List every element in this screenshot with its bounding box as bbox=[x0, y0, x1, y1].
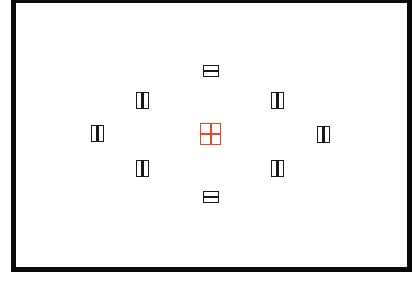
af-point-upper-right-icon bbox=[271, 92, 284, 109]
af-point-bottom-icon bbox=[203, 191, 219, 203]
af-point-upper-left-icon bbox=[136, 92, 149, 109]
af-point-left-icon bbox=[91, 125, 104, 142]
af-point-right-icon bbox=[317, 126, 330, 143]
af-point-top-icon bbox=[203, 65, 219, 77]
af-point-center-selected-icon bbox=[200, 123, 221, 145]
af-point-lower-left-icon bbox=[136, 160, 149, 177]
af-point-lower-right-icon bbox=[271, 160, 284, 177]
